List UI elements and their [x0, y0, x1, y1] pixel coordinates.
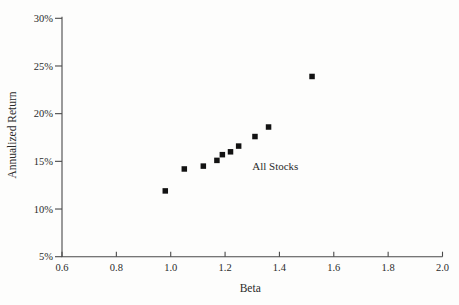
y-tick-label: 5%	[39, 251, 53, 262]
data-point	[214, 158, 220, 164]
y-tick-label: 30%	[34, 13, 54, 24]
y-tick-label: 25%	[34, 61, 54, 72]
data-point	[236, 143, 242, 149]
data-point	[266, 124, 272, 130]
x-tick-label: 1.2	[219, 262, 232, 273]
y-tick-label: 10%	[34, 204, 54, 215]
all-stocks-annotation: All Stocks	[252, 160, 298, 172]
x-tick-label: 1.8	[382, 262, 395, 273]
data-point	[252, 134, 257, 140]
y-axis-title: Annualized Return	[6, 91, 18, 178]
x-tick-label: 0.8	[110, 262, 123, 273]
y-tick-label: 20%	[34, 108, 54, 119]
x-axis-title: Beta	[240, 282, 261, 294]
data-point	[163, 188, 169, 194]
beta-return-scatter-figure: 0.60.81.01.21.41.61.82.05%10%15%20%25%30…	[0, 0, 459, 305]
chart-canvas: 0.60.81.01.21.41.61.82.05%10%15%20%25%30…	[0, 0, 459, 305]
x-tick-label: 1.0	[164, 262, 177, 273]
data-point	[182, 166, 188, 172]
x-tick-label: 1.4	[273, 262, 287, 273]
data-point	[220, 152, 226, 158]
x-tick-label: 1.6	[327, 262, 340, 273]
data-point	[201, 163, 207, 169]
x-tick-label: 2.0	[436, 262, 449, 273]
y-tick-label: 15%	[34, 156, 54, 167]
data-point	[309, 74, 315, 80]
data-point	[228, 149, 234, 155]
x-tick-label: 0.6	[55, 262, 68, 273]
